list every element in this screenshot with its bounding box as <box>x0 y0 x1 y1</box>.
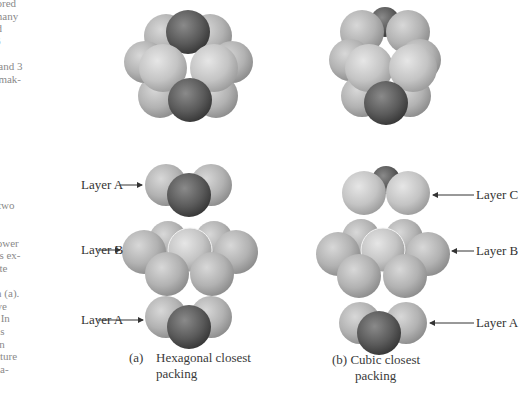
hcp-layer-b <box>122 221 258 296</box>
label-hcp-layer-a-top: Layer A <box>81 177 123 193</box>
hcp-layer-a-top <box>145 164 232 217</box>
ccp-layer-c <box>342 166 430 215</box>
sphere <box>383 254 427 298</box>
sphere <box>342 171 386 215</box>
hcp-assembled-cluster <box>124 10 253 122</box>
label-hcp-layer-a-bottom: Layer A <box>81 312 123 328</box>
closest-packing-figure <box>0 0 523 398</box>
subfigure-b-caption-line1: (b) Cubic closest <box>332 352 420 367</box>
subfigure-a-caption-line1: Hexagonal closest <box>156 350 251 365</box>
sphere <box>337 254 381 298</box>
sphere <box>386 171 430 215</box>
sphere <box>145 252 189 296</box>
label-hcp-layer-b: Layer B <box>81 242 123 258</box>
sphere-dark <box>167 173 211 217</box>
hcp-layer-a-bottom <box>145 296 232 349</box>
subfigure-a-marker: (a) <box>129 350 143 365</box>
ccp-layer-b <box>316 219 450 298</box>
subfigure-b-caption-line2: packing <box>355 368 396 383</box>
ccp-assembled-cluster <box>329 7 441 125</box>
sphere <box>190 252 234 296</box>
label-ccp-layer-a: Layer A <box>476 315 518 331</box>
label-ccp-layer-c: Layer C <box>476 187 518 203</box>
sphere-dark <box>168 78 212 122</box>
ccp-layer-a <box>339 302 427 355</box>
subfigure-a-caption-line2: packing <box>156 366 197 381</box>
label-ccp-layer-b: Layer B <box>476 243 518 259</box>
sphere-dark <box>357 311 401 355</box>
sphere-dark <box>364 81 408 125</box>
sphere-dark <box>167 305 211 349</box>
